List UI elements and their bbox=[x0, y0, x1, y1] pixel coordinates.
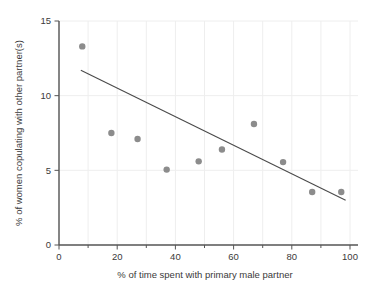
x-axis-title: % of time spent with primary male partne… bbox=[117, 269, 292, 280]
x-tick-label: 0 bbox=[56, 251, 61, 262]
y-tick-label: 10 bbox=[40, 90, 51, 101]
trendline bbox=[81, 70, 346, 200]
data-point bbox=[79, 43, 85, 49]
y-tick-label: 0 bbox=[46, 239, 51, 250]
data-points bbox=[79, 43, 344, 195]
x-tick-label: 60 bbox=[228, 251, 239, 262]
x-tick-label: 20 bbox=[112, 251, 123, 262]
chart-canvas: 020406080100 051015 % of time spent with… bbox=[0, 0, 372, 291]
tick-marks bbox=[55, 21, 351, 250]
data-point bbox=[134, 136, 140, 142]
x-tick-label: 40 bbox=[170, 251, 181, 262]
data-point bbox=[163, 166, 169, 172]
y-axis-title: % of women copulating with other partner… bbox=[13, 40, 24, 226]
x-tick-labels: 020406080100 bbox=[56, 251, 358, 262]
y-tick-labels: 051015 bbox=[40, 15, 51, 250]
data-point bbox=[195, 158, 201, 164]
data-point bbox=[251, 121, 257, 127]
scatter-plot-figure: 020406080100 051015 % of time spent with… bbox=[0, 0, 372, 291]
data-point bbox=[338, 189, 344, 195]
data-point bbox=[108, 130, 114, 136]
data-point bbox=[280, 159, 286, 165]
y-tick-label: 5 bbox=[46, 165, 51, 176]
x-tick-label: 100 bbox=[342, 251, 358, 262]
x-tick-label: 80 bbox=[287, 251, 298, 262]
regression-line bbox=[81, 70, 346, 200]
data-point bbox=[309, 189, 315, 195]
data-point bbox=[219, 146, 225, 152]
y-tick-label: 15 bbox=[40, 15, 51, 26]
